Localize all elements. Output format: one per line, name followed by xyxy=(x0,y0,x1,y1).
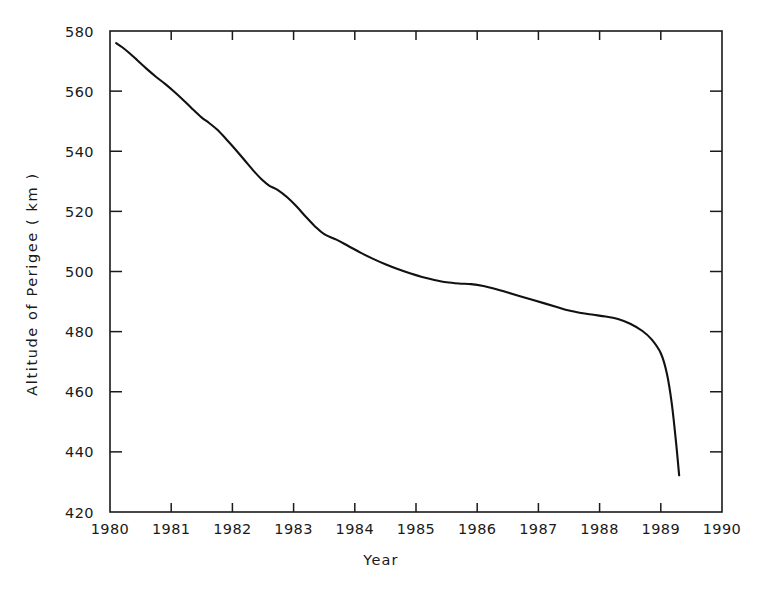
x-tick-label: 1981 xyxy=(152,521,191,537)
y-axis-label: Altitude of Perigee ( km ) xyxy=(24,84,40,484)
y-tick-label: 480 xyxy=(65,324,94,340)
line-chart-plot: 1980198119821983198419851986198719881989… xyxy=(0,0,762,596)
data-line-altitude-of-perigee xyxy=(116,43,679,475)
y-tick-label: 460 xyxy=(65,384,94,400)
y-tick-label: 580 xyxy=(65,24,94,40)
figure-container: Altitude of Perigee ( km ) 1980198119821… xyxy=(0,0,762,596)
y-tick-label: 520 xyxy=(65,204,94,220)
y-tick-label: 560 xyxy=(65,84,94,100)
x-tick-label: 1980 xyxy=(91,521,130,537)
x-axis-label: Year xyxy=(0,552,762,568)
y-axis-ticks xyxy=(110,91,722,452)
x-tick-label: 1990 xyxy=(703,521,742,537)
data-series-group xyxy=(116,43,679,475)
x-tick-label: 1986 xyxy=(458,521,497,537)
x-tick-label: 1982 xyxy=(213,521,252,537)
x-tick-label: 1989 xyxy=(642,521,681,537)
x-tick-label: 1984 xyxy=(336,521,375,537)
y-tick-label: 500 xyxy=(65,264,94,280)
y-tick-label: 440 xyxy=(65,444,94,460)
x-axis-tick-labels: 1980198119821983198419851986198719881989… xyxy=(91,521,742,537)
x-tick-label: 1983 xyxy=(274,521,313,537)
x-tick-label: 1985 xyxy=(397,521,436,537)
y-tick-label: 420 xyxy=(65,505,94,521)
y-axis-label-container: Altitude of Perigee ( km ) xyxy=(0,0,40,596)
y-tick-label: 540 xyxy=(65,144,94,160)
x-tick-label: 1988 xyxy=(580,521,619,537)
x-tick-label: 1987 xyxy=(519,521,558,537)
axes-frame xyxy=(110,31,722,512)
x-axis-ticks xyxy=(171,31,661,512)
y-axis-tick-labels: 420440460480500520540560580 xyxy=(65,24,94,521)
